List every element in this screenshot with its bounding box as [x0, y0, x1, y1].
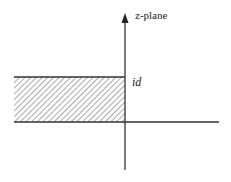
axis-arrow-icon: [122, 13, 129, 23]
hatched-strip-region: [14, 77, 125, 122]
plane-label: z-plane: [135, 9, 167, 21]
height-label: id: [132, 75, 142, 89]
z-plane-diagram: z-plane id: [0, 0, 231, 182]
